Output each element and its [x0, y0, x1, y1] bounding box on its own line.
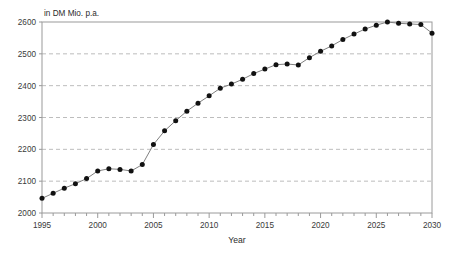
data-point-marker [396, 21, 401, 26]
data-point-marker [430, 31, 435, 36]
data-point-marker [207, 93, 212, 98]
data-point-marker [285, 62, 290, 67]
y-tick-label: 2500 [18, 50, 37, 59]
y-axis-tick-labels: 2000210022002300240025002600 [18, 18, 37, 218]
data-point-marker [374, 23, 379, 28]
data-point-marker [62, 186, 67, 191]
data-point-marker [106, 166, 111, 171]
data-point-marker [385, 20, 390, 25]
y-tick-label: 2100 [18, 177, 37, 186]
data-point-marker [218, 86, 223, 91]
data-point-marker [329, 43, 334, 48]
y-tick-label: 2200 [18, 145, 37, 154]
y-tick-label: 2300 [18, 114, 37, 123]
y-tick-label: 2000 [18, 209, 37, 218]
data-point-marker [95, 168, 100, 173]
data-point-marker [73, 181, 78, 186]
data-point-marker [363, 27, 368, 32]
x-tick-label: 2020 [311, 221, 330, 230]
x-tick-label: 2015 [256, 221, 275, 230]
x-tick-label: 2025 [367, 221, 386, 230]
x-tick-label: 2030 [423, 221, 442, 230]
data-point-marker [151, 142, 156, 147]
chart-container: 19952000200520102015202020252030 2000210… [0, 0, 458, 257]
data-point-marker [274, 62, 279, 67]
x-axis-ticks [42, 213, 432, 218]
data-point-marker [352, 32, 357, 37]
data-point-marker [173, 118, 178, 123]
data-point-marker [296, 62, 301, 67]
data-point-marker [251, 71, 256, 76]
data-point-marker [407, 21, 412, 26]
data-point-marker [40, 196, 45, 201]
data-point-marker [318, 49, 323, 54]
data-point-marker [140, 162, 145, 167]
y-tick-label: 2400 [18, 82, 37, 91]
data-point-marker [262, 67, 267, 72]
data-point-marker [418, 22, 423, 27]
data-point-marker [229, 82, 234, 87]
data-point-marker [51, 191, 56, 196]
y-tick-label: 2600 [18, 18, 37, 27]
data-point-marker [162, 128, 167, 133]
data-point-marker [240, 77, 245, 82]
x-axis-tick-labels: 19952000200520102015202020252030 [33, 221, 442, 230]
x-tick-label: 2000 [89, 221, 108, 230]
data-point-marker [340, 37, 345, 42]
y-axis-unit-label: in DM Mio. p.a. [44, 9, 99, 18]
data-point-marker [184, 109, 189, 114]
data-point-marker [84, 176, 89, 181]
x-tick-label: 2005 [144, 221, 163, 230]
x-axis-title: Year [228, 235, 246, 245]
line-chart: 19952000200520102015202020252030 2000210… [0, 0, 458, 257]
data-point-marker [129, 168, 134, 173]
x-tick-label: 1995 [33, 221, 52, 230]
data-point-marker [118, 167, 123, 172]
x-tick-label: 2010 [200, 221, 219, 230]
data-point-marker [307, 55, 312, 60]
data-point-marker [196, 101, 201, 106]
